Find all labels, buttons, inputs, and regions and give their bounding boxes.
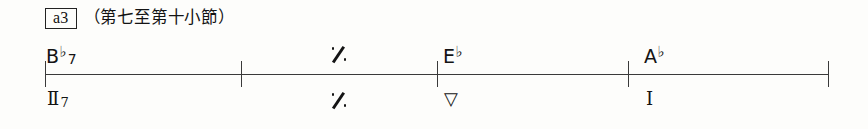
roman-numeral-subscript: 7 [61,95,69,110]
chord-symbol: E♭ [443,42,463,66]
flat-accidental-icon: ♭ [60,43,67,61]
chord-root-letter: B [46,45,59,67]
roman-numeral-glyph: Ⅱ [47,88,60,109]
roman-numeral: I [646,88,653,109]
chord-symbol: B♭7 [46,42,77,69]
flat-accidental-icon: ♭ [658,43,665,61]
flat-accidental-icon: ♭ [456,43,463,61]
section-tag-badge: a3 [45,8,77,29]
roman-numeral: ▽ [444,88,458,109]
chord-symbol: A♭ [644,42,665,66]
roman-numeral-glyph: ▽ [444,88,458,109]
simile-repeat-icon [331,46,348,63]
barline-tick [241,61,242,87]
roman-numeral: Ⅱ7 [47,88,69,113]
chord-root-letter: E [443,45,455,67]
figure-header: a3 （第七至第十小節） [45,6,235,30]
simile-repeat-icon [331,92,348,109]
barline-tick [437,61,438,87]
harmonic-analysis-figure: a3 （第七至第十小節） B♭7E♭A♭ Ⅱ7▽I [0,0,868,129]
barline-tick [628,61,629,87]
timeline-baseline [45,74,829,75]
chord-extension-number: 7 [68,51,77,67]
measure-range-caption: （第七至第十小節） [84,8,235,28]
barline-tick [828,61,829,87]
roman-numeral-glyph: I [646,88,653,109]
chord-root-letter: A [644,45,657,67]
